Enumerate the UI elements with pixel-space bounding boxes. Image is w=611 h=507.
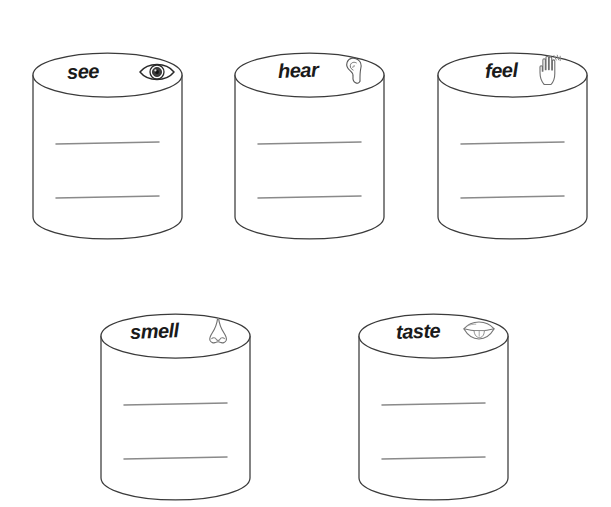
sense-jar-smell: smell [100, 313, 251, 501]
eye-icon [138, 60, 176, 84]
sense-jar-see: see [32, 52, 183, 240]
jar-label-taste: taste [396, 320, 441, 342]
mouth-icon [462, 318, 496, 342]
sense-jar-hear: hear [234, 52, 385, 240]
ear-icon [344, 56, 364, 86]
jar-label-see: see [67, 61, 100, 82]
sense-jar-feel: feel [437, 52, 588, 240]
jar-label-feel: feel [485, 60, 518, 81]
jar-label-hear: hear [278, 59, 319, 81]
sense-jar-taste: taste [358, 313, 509, 501]
five-senses-worksheet: seehearfeelsmelltaste [0, 0, 611, 507]
jar-label-smell: smell [130, 320, 179, 342]
nose-icon [205, 317, 231, 347]
hand-icon [537, 54, 565, 86]
